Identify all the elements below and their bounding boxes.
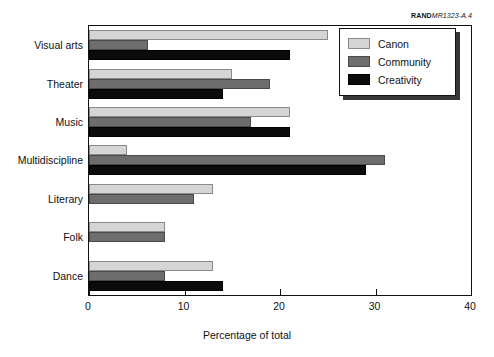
bar-canon: [89, 69, 232, 79]
figure: RANDMR1323-A.4 Visual artsTheaterMusicMu…: [0, 0, 494, 357]
bar-creativity: [89, 89, 223, 99]
bar-canon: [89, 261, 213, 271]
x-tick: [376, 289, 377, 296]
y-category-label: Dance: [0, 270, 83, 282]
bar-community: [89, 232, 165, 242]
bar-canon: [89, 145, 127, 155]
x-tick-label: 10: [178, 300, 190, 312]
x-tick-label: 40: [464, 300, 476, 312]
legend-label-community: Community: [378, 56, 431, 68]
bar-creativity: [89, 50, 290, 60]
bar-creativity: [89, 281, 223, 291]
legend-item-creativity: Creativity: [348, 72, 447, 87]
bar-group: Music: [89, 103, 471, 141]
legend-item-canon: Canon: [348, 36, 447, 51]
bar-canon: [89, 30, 328, 40]
x-tick: [471, 289, 472, 296]
y-category-label: Theater: [0, 78, 83, 90]
bar-group: Folk: [89, 218, 471, 256]
bar-creativity: [89, 127, 290, 137]
bar-canon: [89, 184, 213, 194]
legend-swatch-community: [348, 56, 370, 67]
bar-community: [89, 155, 385, 165]
bar-canon: [89, 222, 165, 232]
bar-community: [89, 194, 194, 204]
bar-canon: [89, 107, 290, 117]
y-category-label: Music: [0, 116, 83, 128]
bar-community: [89, 40, 148, 50]
legend-label-creativity: Creativity: [378, 74, 422, 86]
x-tick: [89, 289, 90, 296]
rand-source-label: RANDMR1323-A.4: [411, 12, 472, 19]
x-tick-label: 20: [273, 300, 285, 312]
rand-brand: RAND: [411, 12, 432, 19]
bar-community: [89, 117, 251, 127]
plot-area: Visual artsTheaterMusicMultidisciplineLi…: [88, 25, 472, 296]
x-axis-title: Percentage of total: [0, 329, 494, 341]
x-tick: [185, 289, 186, 296]
y-category-label: Multidiscipline: [0, 154, 83, 166]
legend: Canon Community Creativity: [339, 28, 456, 96]
y-category-label: Visual arts: [0, 39, 83, 51]
legend-swatch-creativity: [348, 74, 370, 85]
rand-code: MR1323-A.4: [432, 12, 472, 19]
y-category-label: Folk: [0, 231, 83, 243]
bar-community: [89, 79, 270, 89]
x-tick-label: 30: [369, 300, 381, 312]
bar-group: Multidiscipline: [89, 141, 471, 179]
x-tick-label: 0: [85, 300, 91, 312]
bar-group: Literary: [89, 180, 471, 218]
legend-item-community: Community: [348, 54, 447, 69]
legend-label-canon: Canon: [378, 38, 409, 50]
legend-swatch-canon: [348, 38, 370, 49]
bar-community: [89, 271, 165, 281]
bar-creativity: [89, 165, 366, 175]
y-category-label: Literary: [0, 193, 83, 205]
x-tick: [280, 289, 281, 296]
